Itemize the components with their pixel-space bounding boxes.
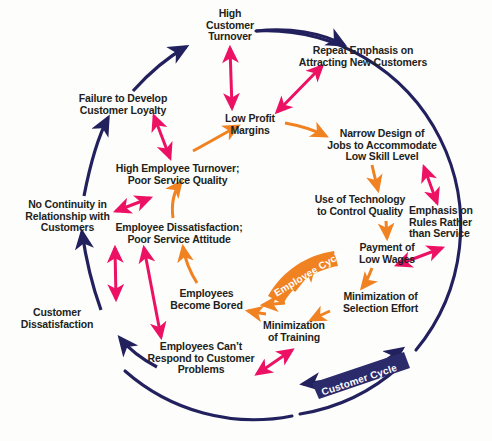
node-customer-dissatisfaction: Customer Dissatisfaction: [11, 307, 103, 330]
node-use-of-technology: Use of Technology to Control Quality: [305, 194, 415, 217]
node-high-customer-turnover: High Customer Turnover: [190, 8, 270, 43]
node-high-employee-turnover: High Employee Turnover; Poor Service Qua…: [105, 163, 250, 186]
node-repeat-emphasis-attracting-new-customers: Repeat Emphasis on Attracting New Custom…: [293, 45, 433, 68]
node-minimization-of-training: Minimization of Training: [254, 320, 334, 343]
node-failure-to-develop-customer-loyalty: Failure to Develop Customer Loyalty: [68, 93, 178, 116]
node-low-profit-margins: Low Profit Margins: [217, 113, 283, 136]
node-employees-cant-respond: Employees Can’t Respond to Customer Prob…: [140, 341, 262, 376]
node-employee-dissatisfaction: Employee Dissatisfaction; Poor Service A…: [103, 222, 255, 245]
node-minimization-of-selection-effort: Minimization of Selection Effort: [333, 291, 428, 314]
node-emphasis-on-rules: Emphasis on Rules Rather than Service: [409, 205, 487, 240]
node-payment-of-low-wages: Payment of Low Wages: [350, 242, 424, 265]
node-narrow-design-of-jobs: Narrow Design of Jobs to Accommodate Low…: [320, 128, 444, 163]
cycle-of-failure-diagram: High Customer Turnover Repeat Emphasis o…: [0, 0, 492, 441]
node-employees-become-bored: Employees Become Bored: [165, 288, 248, 311]
